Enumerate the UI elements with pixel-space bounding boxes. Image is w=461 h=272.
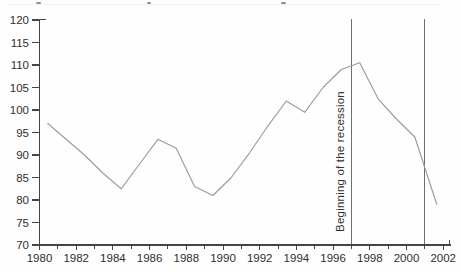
- x-tick-label: 1994: [284, 252, 310, 264]
- x-tick-label: 2000: [394, 252, 420, 264]
- y-tick-label: 75: [16, 217, 29, 229]
- y-tick-label: 95: [16, 127, 29, 139]
- x-tick-label: 1988: [174, 252, 200, 264]
- x-tick-label: 1992: [247, 252, 273, 264]
- x-tick-label: 1980: [27, 252, 53, 264]
- y-tick-label: 105: [10, 82, 29, 94]
- y-tick-label: 120: [10, 14, 29, 26]
- y-tick-label: 70: [16, 239, 29, 251]
- y-tick-label: 85: [16, 172, 29, 184]
- y-tick-label: 100: [10, 104, 29, 116]
- figure-region: 7075808590951001051101151201980198219841…: [0, 0, 461, 272]
- x-tick-label: 1998: [357, 252, 383, 264]
- x-tick-label: 2002: [430, 252, 456, 264]
- x-tick-label: 1990: [210, 252, 236, 264]
- y-tick-label: 80: [16, 194, 29, 206]
- y-tick-label: 90: [16, 149, 29, 161]
- line-chart: 7075808590951001051101151201980198219841…: [0, 0, 461, 272]
- y-tick-label: 110: [11, 59, 29, 71]
- recession-annotation: Beginning of the recession: [332, 87, 347, 237]
- x-tick-label: 1986: [137, 252, 163, 264]
- x-tick-label: 1984: [100, 252, 126, 264]
- y-tick-label: 115: [11, 37, 29, 49]
- data-polyline: [48, 63, 437, 205]
- x-tick-label: 1982: [63, 252, 89, 264]
- x-tick-label: 1996: [320, 252, 346, 264]
